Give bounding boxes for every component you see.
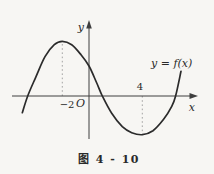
origin-label: O	[76, 97, 85, 110]
dashed-guide-lines	[62, 42, 142, 134]
y-axis-arrowhead	[86, 20, 92, 29]
x-axis-label: x	[189, 101, 196, 114]
y-axis-label: y	[77, 21, 85, 34]
x-tick-label-4: 4	[137, 81, 143, 92]
figure-4-10: y x O −2 4 y = f(x) 图 4 - 10	[0, 0, 214, 174]
function-label: y = f(x)	[150, 57, 192, 70]
x-axis-arrowhead	[190, 93, 199, 99]
figure-caption: 图 4 - 10	[78, 153, 140, 166]
function-curve	[22, 41, 181, 134]
x-tick-label-neg2: −2	[60, 99, 75, 110]
function-plot-canvas: y x O −2 4 y = f(x) 图 4 - 10	[0, 0, 214, 174]
